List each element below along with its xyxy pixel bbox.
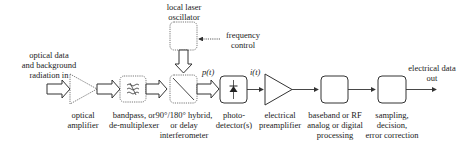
processing-box bbox=[321, 76, 348, 103]
lo-optical-arrow bbox=[175, 50, 192, 73]
sampling-label: sampling, decision, error correction bbox=[362, 110, 422, 140]
oscillator-label: local laser oscillator bbox=[153, 2, 215, 22]
hybrid-label: 90°/180° hybrid, or delay interferometer bbox=[150, 110, 218, 140]
input-label: optical data and background radiation in bbox=[14, 50, 84, 80]
bandpass-filter-box bbox=[120, 76, 146, 102]
electrical-preamplifier-symbol bbox=[265, 74, 292, 105]
output-label: electrical data out bbox=[400, 63, 464, 83]
signal-p-label: p(t) bbox=[202, 67, 214, 77]
photodetector-label: photo- detector(s) bbox=[212, 110, 256, 130]
optical-arrow-3 bbox=[146, 80, 167, 98]
signal-i-label: i(t) bbox=[250, 67, 260, 77]
optical-arrow-4 bbox=[197, 80, 219, 98]
optical-arrow-2 bbox=[97, 80, 120, 98]
optical-amplifier-label: optical amplifier bbox=[58, 110, 108, 130]
local-oscillator-box bbox=[170, 22, 197, 50]
input-optical-arrow bbox=[47, 80, 70, 98]
hybrid-box bbox=[170, 75, 197, 103]
preamplifier-label: electrical preamplifier bbox=[254, 110, 306, 130]
frequency-control-label: frequency control bbox=[218, 30, 268, 50]
photodetector-box bbox=[220, 76, 247, 103]
processing-label: baseband or RF analog or digital process… bbox=[304, 110, 366, 140]
